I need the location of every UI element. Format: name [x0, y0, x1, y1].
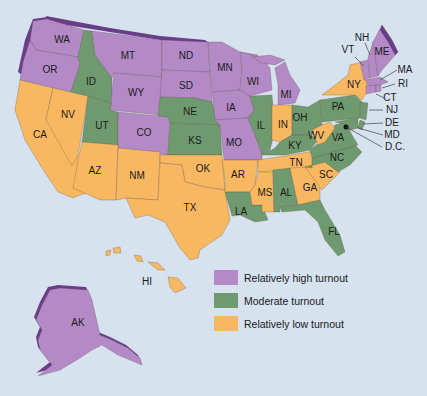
legend-label-moderate: Moderate turnout [244, 295, 324, 307]
state-label-NE: NE [183, 106, 197, 117]
state-label-VA: VA [332, 132, 345, 143]
state-label-MT: MT [121, 50, 135, 61]
map-svg: WAORCANVIDMTWYUTCOAZNMNDSDNEKSOKTXMNIAMO… [0, 0, 427, 396]
state-label-TX: TX [184, 202, 197, 213]
state-label-WY: WY [128, 87, 144, 98]
legend-item-high: Relatively high turnout [214, 266, 348, 289]
legend-swatch-high [214, 270, 238, 285]
state-label-NM: NM [129, 170, 145, 181]
state-label-DE: DE [385, 117, 399, 128]
state-label-FL: FL [328, 226, 340, 237]
hawaii-island[interactable] [168, 277, 186, 293]
legend: Relatively high turnout Moderate turnout… [214, 266, 348, 335]
us-voter-turnout-map: WAORCANVIDMTWYUTCOAZNMNDSDNEKSOKTXMNIAMO… [0, 0, 427, 396]
legend-label-low: Relatively low turnout [244, 318, 344, 330]
state-label-MO: MO [226, 137, 242, 148]
state-label-NC: NC [330, 152, 344, 163]
state-label-RI: RI [398, 78, 408, 89]
state-label-HI: HI [142, 276, 152, 287]
state-label-MI: MI [280, 89, 291, 100]
state-label-IN: IN [278, 119, 288, 130]
state-label-LA: LA [235, 206, 248, 217]
legend-item-moderate: Moderate turnout [214, 289, 348, 312]
state-label-ME: ME [375, 46, 390, 57]
state-label-GA: GA [303, 182, 318, 193]
state-label-NV: NV [61, 109, 75, 120]
state-label-NJ: NJ [386, 104, 398, 115]
state-label-AR: AR [231, 169, 245, 180]
state-RI[interactable] [376, 85, 381, 92]
state-label-MD: MD [384, 129, 400, 140]
hawaii-island[interactable] [148, 262, 165, 270]
legend-label-high: Relatively high turnout [244, 272, 348, 284]
state-label-ND: ND [179, 50, 193, 61]
state-label-SC: SC [319, 169, 333, 180]
state-label-KS: KS [188, 135, 202, 146]
state-label-AZ: AZ [89, 165, 102, 176]
state-label-DC: D.C. [385, 141, 405, 152]
state-label-WA: WA [54, 34, 70, 45]
legend-swatch-moderate [214, 293, 238, 308]
state-label-TN: TN [289, 157, 302, 168]
state-label-IL: IL [257, 120, 266, 131]
state-label-VT: VT [342, 44, 355, 55]
state-label-ID: ID [86, 76, 96, 87]
state-label-NH: NH [355, 32, 369, 43]
state-label-MA: MA [398, 64, 413, 75]
state-label-OH: OH [293, 112, 308, 123]
state-label-WV: WV [308, 130, 324, 141]
state-HI[interactable] [106, 250, 111, 256]
state-label-SD: SD [179, 80, 193, 91]
state-label-AL: AL [280, 187, 293, 198]
state-label-AK: AK [71, 317, 85, 328]
state-label-OK: OK [196, 163, 211, 174]
state-label-MS: MS [258, 187, 273, 198]
state-CT[interactable] [366, 85, 376, 94]
state-label-PA: PA [332, 101, 345, 112]
state-label-CA: CA [33, 129, 47, 140]
legend-item-low: Relatively low turnout [214, 312, 348, 335]
state-label-NY: NY [347, 79, 361, 90]
state-label-WI: WI [247, 76, 259, 87]
state-label-CO: CO [137, 127, 152, 138]
state-NJ[interactable] [360, 102, 368, 120]
hawaii-island[interactable] [113, 247, 121, 253]
state-label-MN: MN [217, 62, 233, 73]
legend-swatch-low [214, 316, 238, 331]
state-AK[interactable] [36, 288, 142, 376]
state-label-KY: KY [288, 140, 302, 151]
hawaii-island[interactable] [134, 255, 143, 262]
state-label-IA: IA [226, 102, 236, 113]
state-label-CT: CT [383, 92, 396, 103]
state-label-UT: UT [95, 120, 108, 131]
state-label-OR: OR [43, 64, 58, 75]
